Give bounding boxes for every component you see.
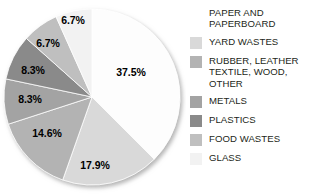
legend-color-swatch (190, 8, 202, 20)
legend-item-label: PAPER AND PAPERBOARD (209, 7, 275, 30)
chart-legend: PAPER AND PAPERBOARDYARD WASTESRUBBER, L… (190, 7, 311, 192)
legend-item[interactable]: FOOD WASTES (190, 133, 311, 146)
legend-color-swatch (190, 115, 202, 127)
legend-item[interactable]: PLASTICS (190, 114, 311, 127)
pie-slice-value-label: 6.7% (61, 14, 85, 26)
pie-chart-figure: 37.5%17.9%14.6%8.3%8.3%6.7%6.7% PAPER AN… (0, 0, 311, 194)
legend-item-label: YARD WASTES (209, 36, 278, 47)
legend-item[interactable]: GLASS (190, 152, 311, 165)
pie-slice-value-label: 6.7% (36, 37, 60, 49)
legend-color-swatch (190, 134, 202, 146)
legend-color-swatch (190, 56, 202, 68)
legend-item[interactable]: RUBBER, LEATHER TEXTILE, WOOD, OTHER (190, 55, 311, 89)
pie-slice-value-label: 14.6% (32, 127, 62, 139)
legend-item-label: RUBBER, LEATHER TEXTILE, WOOD, OTHER (209, 55, 299, 89)
pie-slice-value-label: 37.5% (116, 66, 146, 78)
pie-slice-value-label: 17.9% (80, 159, 110, 171)
legend-item[interactable]: YARD WASTES (190, 36, 311, 49)
pie-slice-value-label: 8.3% (21, 64, 45, 76)
legend-color-swatch (190, 37, 202, 49)
legend-item[interactable]: PAPER AND PAPERBOARD (190, 7, 311, 30)
legend-color-swatch (190, 96, 202, 108)
legend-item[interactable]: METALS (190, 95, 311, 108)
pie-slice-value-label: 8.3% (18, 93, 42, 105)
legend-item-label: PLASTICS (209, 114, 256, 125)
legend-item-label: METALS (209, 95, 247, 106)
pie-chart-plot-area: 37.5%17.9%14.6%8.3%8.3%6.7%6.7% (0, 0, 186, 194)
legend-item-label: GLASS (209, 152, 241, 163)
legend-item-label: FOOD WASTES (209, 133, 280, 144)
pie-chart-svg: 37.5%17.9%14.6%8.3%8.3%6.7%6.7% (0, 0, 186, 194)
legend-color-swatch (190, 153, 202, 165)
